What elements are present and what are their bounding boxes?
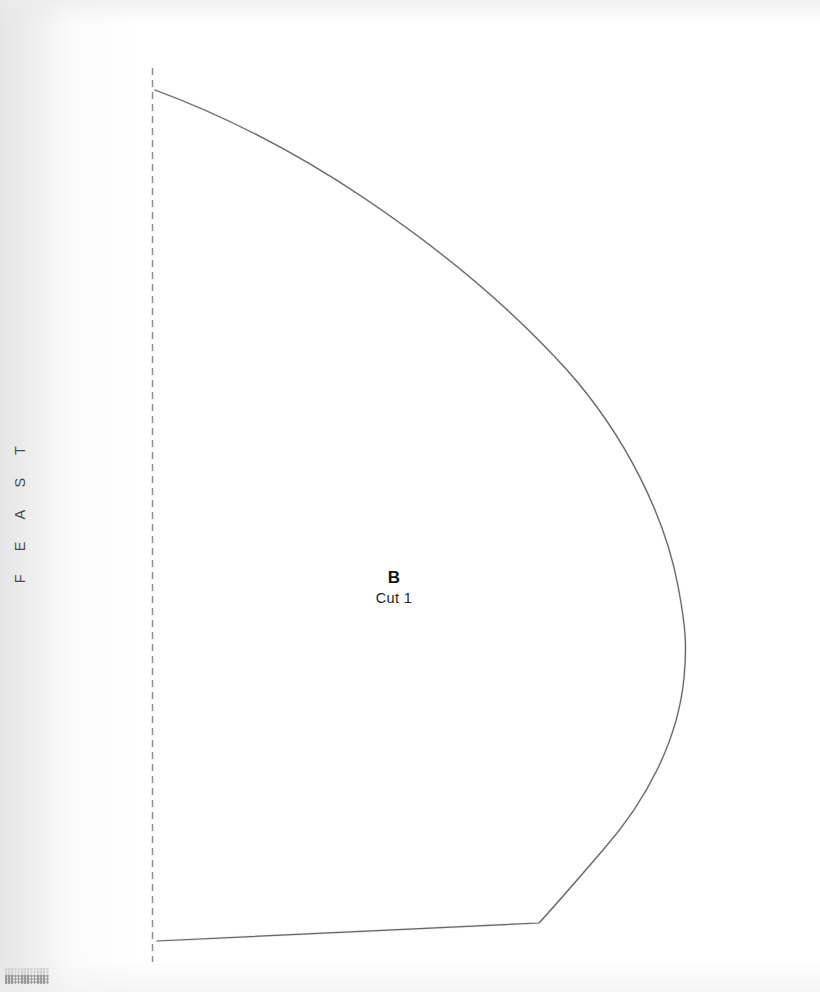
pattern-outline-softness: [155, 90, 686, 941]
pattern-page: F E A S T B Cut 1: [0, 0, 820, 992]
pattern-drawing: [0, 0, 820, 992]
pattern-outline-path: [155, 90, 686, 941]
